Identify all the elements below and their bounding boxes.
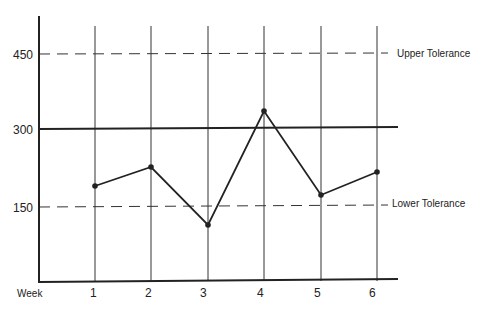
y-tick-label: 450 bbox=[13, 48, 33, 62]
upper-tolerance-label: Upper Tolerance bbox=[397, 48, 471, 59]
y-tick-label: 300 bbox=[13, 123, 33, 137]
x-axis-title: Week bbox=[17, 288, 43, 299]
lower-tolerance-label: Lower Tolerance bbox=[392, 198, 466, 209]
lower-tolerance-line bbox=[39, 205, 388, 207]
x-tick-label: 4 bbox=[257, 286, 264, 300]
center-line bbox=[39, 127, 398, 129]
x-tick-label: 5 bbox=[314, 286, 321, 300]
x-axis bbox=[39, 279, 398, 282]
control-chart: 450 300 150 Week 1 2 3 4 5 6 Upper Toler… bbox=[0, 0, 477, 313]
x-tick-label: 3 bbox=[200, 286, 207, 300]
vertical-gridlines bbox=[95, 26, 377, 281]
x-tick-label: 1 bbox=[90, 286, 97, 300]
x-tick-label: 6 bbox=[369, 286, 376, 300]
y-tick-label: 150 bbox=[13, 201, 33, 215]
upper-tolerance-line bbox=[39, 53, 388, 54]
x-tick-label: 2 bbox=[145, 286, 152, 300]
